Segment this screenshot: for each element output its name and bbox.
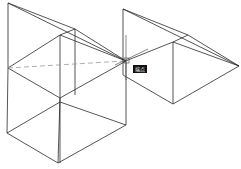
left-box-with-wedge bbox=[7, 3, 126, 163]
tracking-line bbox=[8, 61, 124, 68]
right-wedge bbox=[123, 9, 239, 104]
drawing-canvas[interactable] bbox=[0, 0, 241, 169]
snap-tooltip: 端点 bbox=[133, 65, 147, 73]
